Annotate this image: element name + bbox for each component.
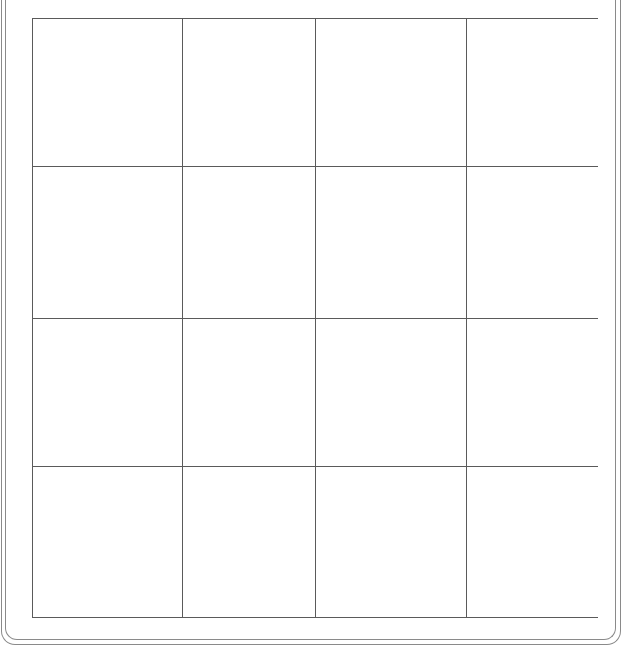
grid-cell-r2-c2[interactable] xyxy=(316,319,467,467)
cell-value xyxy=(467,319,598,466)
cell-value xyxy=(183,467,315,617)
grid-cell-r0-c0[interactable] xyxy=(33,19,183,167)
cell-value xyxy=(183,167,315,318)
cell-value xyxy=(33,19,182,166)
cell-value xyxy=(183,319,315,466)
cell-value xyxy=(316,19,466,166)
cell-value xyxy=(467,167,598,318)
grid-cell-r1-c3[interactable] xyxy=(467,167,598,319)
grid-cell-r1-c2[interactable] xyxy=(316,167,467,319)
grid-cell-r0-c2[interactable] xyxy=(316,19,467,167)
cell-value xyxy=(33,319,182,466)
cell-value xyxy=(33,167,182,318)
cell-value xyxy=(467,19,598,166)
grid-cell-r3-c0[interactable] xyxy=(33,467,183,617)
cell-value xyxy=(316,467,466,617)
grid-cell-r3-c3[interactable] xyxy=(467,467,598,617)
grid-cell-r1-c0[interactable] xyxy=(33,167,183,319)
cell-value xyxy=(183,19,315,166)
grid-cell-r2-c1[interactable] xyxy=(183,319,316,467)
grid-cell-r3-c2[interactable] xyxy=(316,467,467,617)
grid-cell-r0-c1[interactable] xyxy=(183,19,316,167)
grid-cell-r2-c3[interactable] xyxy=(467,319,598,467)
cell-value xyxy=(467,467,598,617)
cell-value xyxy=(33,467,182,617)
grid-cell-r3-c1[interactable] xyxy=(183,467,316,617)
grid-cell-r2-c0[interactable] xyxy=(33,319,183,467)
cell-value xyxy=(316,319,466,466)
cell-value xyxy=(316,167,466,318)
game-board-grid xyxy=(32,18,598,618)
grid-cell-r1-c1[interactable] xyxy=(183,167,316,319)
grid-cell-r0-c3[interactable] xyxy=(467,19,598,167)
